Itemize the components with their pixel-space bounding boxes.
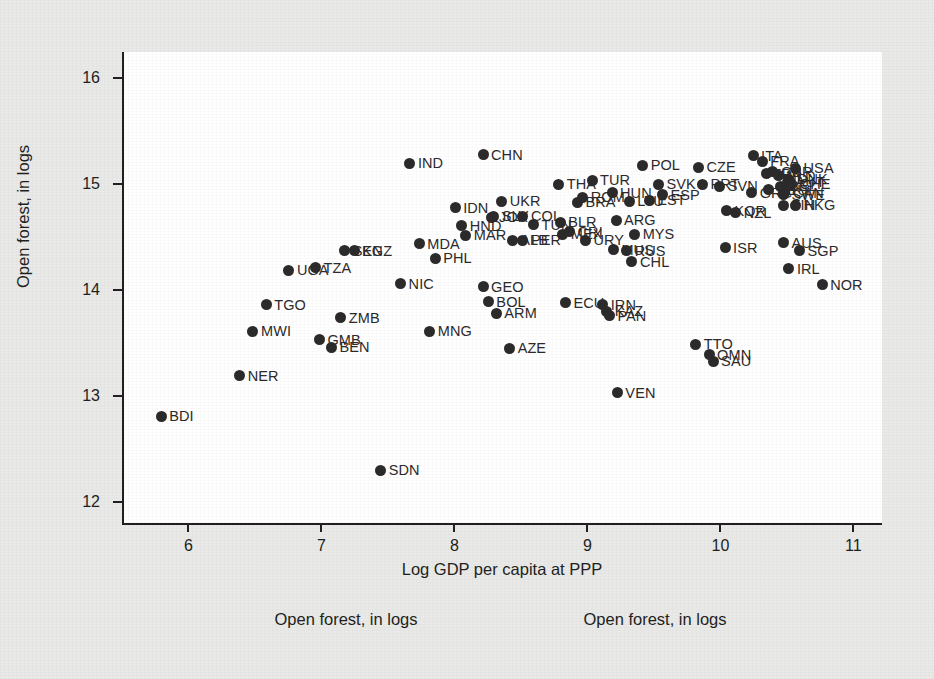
scatter-point[interactable] [693, 162, 704, 173]
caption-left: Open forest, in logs [274, 610, 417, 629]
scatter-point[interactable] [460, 230, 471, 241]
scatter-point[interactable] [404, 158, 415, 169]
scatter-point-label: CHN [491, 148, 523, 163]
y-tick-mark [113, 501, 122, 503]
scatter-point[interactable] [478, 149, 489, 160]
x-tick-label: 9 [583, 537, 592, 555]
scatter-point-label: CHL [640, 255, 669, 270]
y-tick-label: 14 [0, 281, 100, 299]
scatter-point-label: MDA [427, 237, 460, 252]
scatter-point[interactable] [478, 281, 489, 292]
y-tick-label: 12 [0, 493, 100, 511]
scatter-point[interactable] [555, 217, 566, 228]
x-tick-label: 6 [184, 537, 193, 555]
scatter-point[interactable] [612, 387, 623, 398]
scatter-point[interactable] [653, 179, 664, 190]
scatter-point-label: SAU [721, 354, 751, 369]
scatter-point-label: MAR [474, 228, 507, 243]
scatter-point[interactable] [637, 160, 648, 171]
scatter-point[interactable] [488, 211, 499, 222]
scatter-point-label: TZA [323, 261, 351, 276]
scatter-point[interactable] [629, 229, 640, 240]
scatter-point[interactable] [375, 465, 386, 476]
scatter-point[interactable] [778, 200, 789, 211]
scatter-point[interactable] [786, 179, 797, 190]
scatter-point-label: SDN [389, 463, 420, 478]
scatter-point[interactable] [156, 411, 167, 422]
y-tick-label: 15 [0, 175, 100, 193]
scatter-point[interactable] [708, 356, 719, 367]
scatter-point-label: UKR [510, 194, 541, 209]
scatter-point[interactable] [577, 192, 588, 203]
scatter-point-label: BDI [169, 409, 193, 424]
scatter-point-label: POL [651, 158, 680, 173]
scatter-point[interactable] [790, 200, 801, 211]
scatter-point-label: AZE [518, 341, 547, 356]
scatter-point[interactable] [261, 299, 272, 310]
y-axis-label: Open forest, in logs [14, 145, 33, 288]
scatter-point[interactable] [414, 238, 425, 249]
scatter-point-label: GEO [491, 280, 524, 295]
scatter-point-label: NIC [409, 277, 434, 292]
scatter-point[interactable] [697, 179, 708, 190]
scatter-point-label: IDN [463, 201, 488, 216]
scatter-point[interactable] [335, 312, 346, 323]
scatter-point[interactable] [604, 310, 615, 321]
scatter-point-label: KGZ [362, 244, 392, 259]
scatter-point[interactable] [450, 202, 461, 213]
scatter-point[interactable] [517, 211, 528, 222]
scatter-point[interactable] [794, 245, 805, 256]
scatter-point[interactable] [395, 278, 406, 289]
scatter-point[interactable] [608, 244, 619, 255]
y-tick-mark [113, 183, 122, 185]
scatter-point[interactable] [817, 279, 828, 290]
scatter-point[interactable] [778, 237, 789, 248]
scatter-point-label: PAN [617, 309, 646, 324]
scatter-point[interactable] [607, 187, 618, 198]
scatter-point-label: MYS [643, 227, 675, 242]
scatter-point-label: PHL [443, 251, 472, 266]
scatter-point-label: HKG [804, 198, 836, 213]
scatter-point[interactable] [314, 334, 325, 345]
scatter-point[interactable] [587, 175, 598, 186]
scatter-point-label: CHE [800, 177, 831, 192]
scatter-point[interactable] [283, 265, 294, 276]
scatter-point[interactable] [624, 196, 635, 207]
scatter-point[interactable] [560, 297, 571, 308]
scatter-point[interactable] [496, 196, 507, 207]
scatter-point[interactable] [483, 296, 494, 307]
scatter-point[interactable] [790, 163, 801, 174]
scatter-point-label: ARM [504, 306, 537, 321]
x-tick-label: 8 [450, 537, 459, 555]
scatter-point[interactable] [644, 195, 655, 206]
scatter-point[interactable] [690, 339, 701, 350]
scatter-point-label: SGP [808, 244, 839, 259]
y-tick-mark [113, 77, 122, 79]
scatter-point[interactable] [326, 342, 337, 353]
scatter-point[interactable] [757, 156, 768, 167]
scatter-point[interactable] [580, 235, 591, 246]
scatter-point-label: IRL [797, 262, 820, 277]
scatter-point[interactable] [491, 308, 502, 319]
scatter-point-label: ZMB [349, 311, 380, 326]
scatter-point[interactable] [746, 187, 757, 198]
scatter-point[interactable] [424, 326, 435, 337]
scatter-point-label: ESP [671, 188, 700, 203]
scatter-point[interactable] [234, 370, 245, 381]
scatter-point[interactable] [504, 343, 515, 354]
scatter-point[interactable] [507, 235, 518, 246]
scatter-point[interactable] [247, 326, 258, 337]
scatter-point[interactable] [626, 256, 637, 267]
scatter-point-label: TGO [274, 298, 306, 313]
scatter-point-label: NOR [830, 278, 863, 293]
scatter-point[interactable] [783, 263, 794, 274]
x-tick-label: 7 [317, 537, 326, 555]
x-tick-label: 11 [845, 537, 862, 555]
scatter-point[interactable] [720, 242, 731, 253]
scatter-point[interactable] [528, 219, 539, 230]
scatter-point[interactable] [349, 245, 360, 256]
scatter-point[interactable] [430, 253, 441, 264]
scatter-point-label: BEN [339, 340, 369, 355]
scatter-point[interactable] [611, 215, 622, 226]
scatter-point[interactable] [553, 179, 564, 190]
